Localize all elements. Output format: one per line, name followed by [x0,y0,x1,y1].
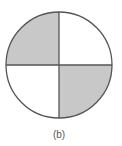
quadrant-top-right-unshaded [59,12,112,65]
figure-caption: (b) [0,129,118,140]
quadrant-circle-diagram [0,0,122,146]
quadrant-bottom-left-unshaded [6,65,59,118]
quadrant-bottom-right-shaded [59,65,112,118]
quadrant-top-left-shaded [6,12,59,65]
